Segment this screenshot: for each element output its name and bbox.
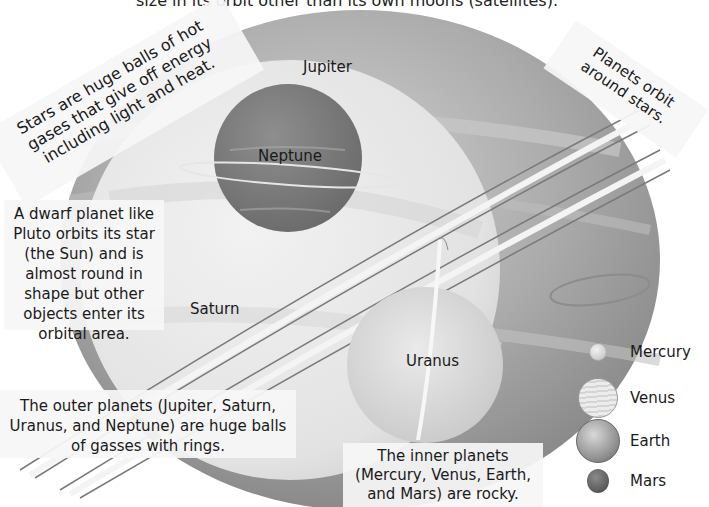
- outer-planets-note: The outer planets (Jupiter, Saturn, Uran…: [0, 390, 296, 458]
- legend-item-earth: Earth: [574, 419, 670, 463]
- dwarf-planet-note: A dwarf planet like Pluto orbits its sta…: [4, 200, 164, 330]
- earth-icon: [576, 419, 620, 463]
- legend-item-venus: Venus: [574, 378, 675, 418]
- mars-icon: [587, 469, 609, 493]
- jupiter-label: Jupiter: [303, 58, 352, 76]
- legend-item-mars: Mars: [574, 469, 666, 493]
- uranus-label: Uranus: [406, 352, 459, 370]
- legend-item-mercury: Mercury: [574, 343, 691, 361]
- legend-label: Mars: [630, 472, 666, 490]
- legend-label: Venus: [630, 389, 675, 407]
- legend-label: Mercury: [630, 343, 691, 361]
- legend-label: Earth: [630, 432, 670, 450]
- inner-planets-note: The inner planets (Mercury, Venus, Earth…: [343, 443, 543, 507]
- mercury-icon: [589, 343, 607, 361]
- saturn-label: Saturn: [190, 300, 240, 318]
- venus-icon: [578, 378, 618, 418]
- neptune-label: Neptune: [258, 147, 322, 165]
